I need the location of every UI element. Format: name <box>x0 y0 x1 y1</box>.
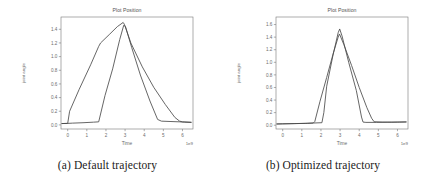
y-tick-label: 1.2 <box>266 47 273 52</box>
subfigure-a: Plot Position01234560.00.20.40.60.81.01.… <box>0 0 215 187</box>
plot-b: Plot Position01234560.00.20.40.60.81.01.… <box>230 1 416 158</box>
plot-a-canvas: Plot Position01234560.00.20.40.60.81.01.… <box>15 1 201 158</box>
y-tick-label: 0.2 <box>266 110 273 115</box>
y-tick-label: 0.0 <box>266 123 273 128</box>
x-tick-label: 3 <box>339 133 342 138</box>
x-tick-label: 4 <box>142 133 145 138</box>
y-tick-label: 1.2 <box>51 41 58 46</box>
figure-container: Plot Position01234560.00.20.40.60.81.01.… <box>0 0 431 187</box>
y-tick-label: 1.6 <box>266 22 273 27</box>
x-tick-label: 6 <box>181 133 184 138</box>
y-axis-label: joint angle <box>21 62 26 84</box>
y-tick-label: 0.4 <box>266 98 273 103</box>
x-axis-label: Time <box>121 141 132 146</box>
chart-title: Plot Position <box>112 7 141 13</box>
y-tick-label: 0.6 <box>51 82 58 87</box>
y-tick-label: 1.0 <box>266 60 273 65</box>
plot-frame <box>276 17 408 129</box>
y-tick-label: 0.2 <box>51 109 58 114</box>
plot-a: Plot Position01234560.00.20.40.60.81.01.… <box>15 1 201 158</box>
x-tick-label: 0 <box>281 133 284 138</box>
x-tick-label: 5 <box>377 133 380 138</box>
x-axis-exponent-label: 1e9 <box>401 141 409 146</box>
x-tick-label: 2 <box>104 133 107 138</box>
y-axis-label: joint angle <box>236 62 241 84</box>
subfigure-b: Plot Position01234560.00.20.40.60.81.01.… <box>215 0 431 187</box>
subfigure-a-caption: (a) Default trajectory <box>58 159 157 171</box>
x-tick-label: 2 <box>320 133 323 138</box>
plot-b-canvas: Plot Position01234560.00.20.40.60.81.01.… <box>230 1 416 158</box>
subfigure-b-caption: (b) Optimized trajectory <box>266 159 380 171</box>
y-tick-label: 1.4 <box>266 35 273 40</box>
chart-title: Plot Position <box>328 7 357 13</box>
y-tick-label: 0.4 <box>51 95 58 100</box>
y-tick-label: 0.0 <box>51 123 58 128</box>
x-axis-exponent-label: 1e9 <box>185 141 193 146</box>
y-tick-label: 1.0 <box>51 54 58 59</box>
x-tick-label: 3 <box>123 133 126 138</box>
plot-frame <box>61 17 193 129</box>
y-tick-label: 0.8 <box>266 73 273 78</box>
y-tick-label: 0.6 <box>266 85 273 90</box>
x-tick-label: 6 <box>396 133 399 138</box>
x-axis-label: Time <box>337 141 348 146</box>
y-tick-label: 0.8 <box>51 68 58 73</box>
x-tick-label: 1 <box>85 133 88 138</box>
x-tick-label: 4 <box>358 133 361 138</box>
y-tick-label: 1.4 <box>51 27 58 32</box>
x-tick-label: 0 <box>66 133 69 138</box>
x-tick-label: 5 <box>162 133 165 138</box>
x-tick-label: 1 <box>301 133 304 138</box>
